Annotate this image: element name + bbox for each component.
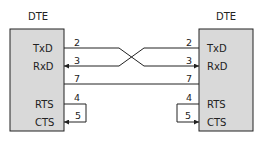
left-pin-numbers: 2 3 7 4 5 [74,37,81,121]
null-modem-diagram: DTE TxD RxD RTS CTS DTE TxD RxD RTS CTS … [0,0,262,144]
right-pin-3: 3 [186,55,192,66]
left-cts-label: CTS [35,117,54,128]
left-txd-label: TxD [32,43,53,54]
left-dte: DTE TxD RxD RTS CTS [10,11,64,131]
left-rts-label: RTS [35,99,54,110]
left-pin-3: 3 [74,55,80,66]
left-pin-4: 4 [74,92,80,103]
right-pin-7: 7 [186,73,192,84]
crossover-wires [64,48,199,122]
left-dte-title: DTE [28,11,48,22]
right-dte: DTE TxD RxD RTS CTS [199,11,253,131]
right-rxd-label: RxD [207,61,228,72]
left-pin-7: 7 [74,73,80,84]
right-rts-label: RTS [207,99,226,110]
right-pin-5: 5 [185,110,191,121]
right-pin-numbers: 2 3 7 4 5 [185,37,192,121]
left-rxd-label: RxD [33,61,54,72]
left-pin-5: 5 [75,110,81,121]
right-pin-4: 4 [186,92,192,103]
wire-right-txd-to-left-rxd [64,48,199,66]
right-txd-label: TxD [206,43,227,54]
left-pin-2: 2 [74,37,80,48]
right-dte-title: DTE [216,11,236,22]
right-pin-2: 2 [186,37,192,48]
right-cts-label: CTS [207,117,226,128]
